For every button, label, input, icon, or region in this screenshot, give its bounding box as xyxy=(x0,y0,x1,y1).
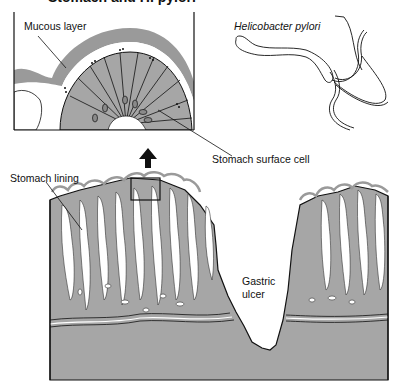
inset-magnified-view xyxy=(14,12,232,156)
label-helicobacter-pylori: Helicobacter pylori xyxy=(234,20,320,32)
label-gastric-ulcer-line2: ulcer xyxy=(242,288,265,300)
up-arrow-icon xyxy=(139,148,157,168)
label-stomach-lining: Stomach lining xyxy=(10,172,79,184)
diagram-canvas xyxy=(0,0,399,381)
stomach-lining-section xyxy=(46,172,388,380)
helicobacter-pylori-drawing xyxy=(236,16,388,130)
label-stomach-surface-cell: Stomach surface cell xyxy=(212,153,309,165)
label-mucous-layer: Mucous layer xyxy=(24,20,86,32)
label-gastric-ulcer-line1: Gastric xyxy=(242,275,275,287)
